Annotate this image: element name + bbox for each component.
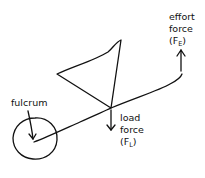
load-label-symbol: (FL) <box>120 136 137 149</box>
effort-label-line2: force <box>169 23 193 34</box>
lever-diagram: fulcrum load force (FL) effort force (FE… <box>0 0 205 178</box>
load-label-line1: load <box>120 112 140 123</box>
load-label-line2: force <box>120 124 144 135</box>
effort-label-line1: effort <box>169 11 195 22</box>
fulcrum-circle <box>13 118 57 159</box>
fulcrum-arrow <box>28 111 36 139</box>
effort-label-symbol: (FE) <box>169 35 186 48</box>
effort-force-arrow <box>177 50 185 71</box>
load-triangle <box>57 40 121 108</box>
fulcrum-label: fulcrum <box>11 97 47 108</box>
load-force-arrow <box>107 110 115 130</box>
